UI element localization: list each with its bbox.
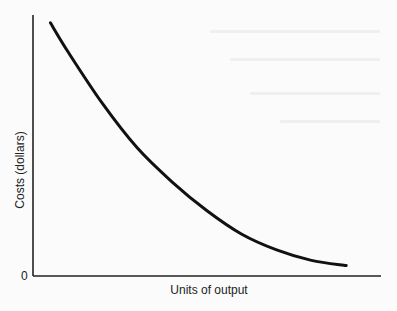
y-axis-label: Costs (dollars): [13, 131, 27, 208]
origin-label: 0: [21, 269, 28, 283]
x-axis-label: Units of output: [170, 283, 247, 297]
cost-curve: [50, 23, 346, 266]
chart-plot: [0, 0, 397, 311]
chart-root: Costs (dollars) Units of output 0: [0, 0, 397, 311]
